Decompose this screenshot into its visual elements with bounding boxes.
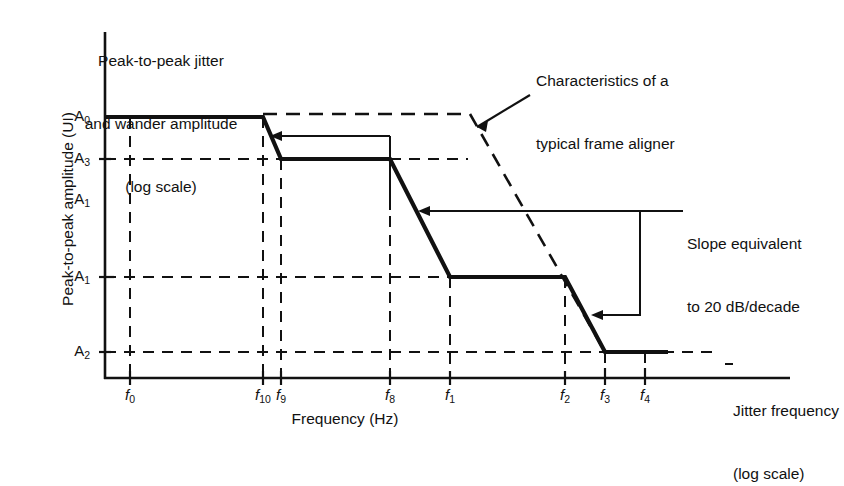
x-axis-side-label-line-2: (log scale) <box>733 463 839 484</box>
figure-title-line-1: Peak-to-peak jitter <box>26 50 296 71</box>
x-tick-label: f4 <box>625 386 665 403</box>
y-tick-base: A <box>74 190 84 207</box>
x-axis-side-label-line-1: Jitter frequency <box>733 400 839 421</box>
y-tick-base: A <box>74 267 84 284</box>
annotation-slope: Slope equivalent to 20 dB/decade <box>687 191 802 359</box>
annotation-slope-line-1: Slope equivalent <box>687 233 802 254</box>
y-tick-label: A1 <box>50 267 90 284</box>
x-tick-subscript: 0 <box>129 393 135 405</box>
aligner-leader-line <box>477 95 530 127</box>
x-tick-label: f2 <box>545 386 585 403</box>
y-tick-label: A1 <box>50 190 90 207</box>
y-tick-subscript: 1 <box>84 197 90 209</box>
x-tick-label: f3 <box>585 386 625 403</box>
y-tick-base: A <box>74 107 84 124</box>
x-tick-subscript: 9 <box>280 393 286 405</box>
x-tick-subscript: 1 <box>449 393 455 405</box>
annotation-slope-line-2: to 20 dB/decade <box>687 296 802 317</box>
x-tick-subscript: 3 <box>604 393 610 405</box>
x-tick-subscript: 2 <box>564 393 570 405</box>
x-tick-label: f1 <box>430 386 470 403</box>
y-tick-subscript: 3 <box>84 156 90 168</box>
y-tick-subscript: 0 <box>84 114 90 126</box>
y-tick-label: A3 <box>50 149 90 166</box>
x-axis-title: Frequency (Hz) <box>220 410 470 428</box>
y-tick-subscript: 1 <box>84 274 90 286</box>
slope-callout-lower-arrowhead <box>591 310 603 320</box>
slope-callout-lower-line <box>597 211 640 315</box>
x-tick-label: f9 <box>261 386 301 403</box>
x-tick-subscript: 4 <box>644 393 650 405</box>
y-tick-subscript: 2 <box>84 349 90 361</box>
annotation-frame-aligner: Characteristics of a typical frame align… <box>536 28 675 196</box>
y-tick-base: A <box>74 342 84 359</box>
y-tick-label: A2 <box>50 342 90 359</box>
annotation-frame-aligner-line-1: Characteristics of a <box>536 70 675 91</box>
x-tick-subscript: 8 <box>389 393 395 405</box>
x-axis-side-label: Jitter frequency (log scale) <box>733 358 839 486</box>
x-tick-label: f8 <box>370 386 410 403</box>
x-axis-ticks <box>130 368 645 385</box>
x-tick-label: f0 <box>110 386 150 403</box>
y-tick-base: A <box>74 149 84 166</box>
annotation-frame-aligner-line-2: typical frame aligner <box>536 133 675 154</box>
y-tick-label: A0 <box>50 107 90 124</box>
